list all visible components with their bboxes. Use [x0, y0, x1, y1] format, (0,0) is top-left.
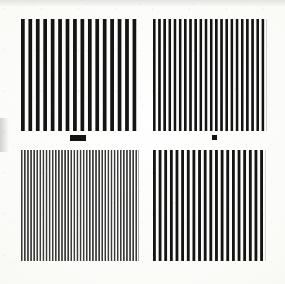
bar-pattern-bottom-right — [153, 150, 266, 261]
marker-square — [212, 135, 217, 140]
scan-edge-shadow-top — [0, 0, 285, 7]
scan-edge-smudge-left — [0, 118, 9, 152]
resolution-test-target — [0, 0, 285, 284]
quadrant-bottom-right — [153, 150, 266, 261]
quadrant-top-right — [153, 19, 267, 131]
quadrant-top-left — [21, 19, 140, 131]
bar-pattern-top-left — [21, 19, 140, 131]
bar-pattern-bottom-left — [21, 150, 139, 261]
quadrant-bottom-left — [21, 150, 139, 261]
bar-pattern-top-right — [153, 19, 267, 131]
marker-rectangle — [70, 135, 86, 141]
